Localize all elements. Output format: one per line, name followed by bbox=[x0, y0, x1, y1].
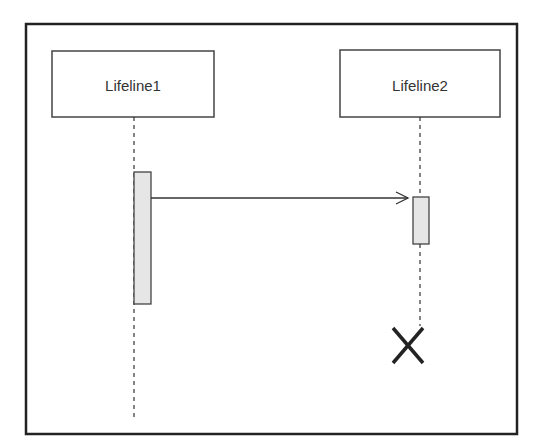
sequence-diagram: Lifeline1 Lifeline2 bbox=[0, 0, 540, 448]
x-destroy-icon bbox=[393, 328, 423, 363]
lifeline-1: Lifeline1 bbox=[52, 51, 214, 420]
lifeline-2: Lifeline2 bbox=[340, 50, 500, 326]
lifeline-2-label: Lifeline2 bbox=[392, 77, 448, 94]
lifeline-1-activation[interactable] bbox=[134, 172, 151, 304]
lifeline-1-label: Lifeline1 bbox=[105, 77, 161, 94]
lifeline-2-activation[interactable] bbox=[413, 197, 429, 244]
message-arrow[interactable] bbox=[151, 192, 408, 204]
